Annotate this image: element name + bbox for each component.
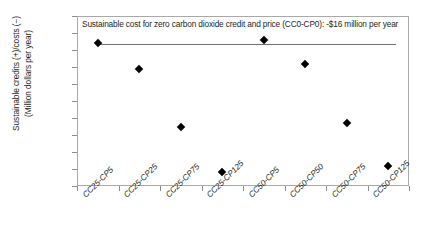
y-axis-title: Sustainable credits (+)/costs (−) (Milli… xyxy=(11,0,34,164)
x-tick-mark xyxy=(243,186,244,191)
x-tick-mark xyxy=(119,186,120,191)
x-tick-mark xyxy=(77,186,78,191)
reference-line xyxy=(98,44,396,45)
x-tick-mark xyxy=(409,186,410,191)
y-axis-title-line-1: Sustainable credits (+)/costs (−) xyxy=(11,0,23,164)
x-tick-mark xyxy=(202,186,203,191)
x-tick-mark xyxy=(285,186,286,191)
chart-container: Sustainable credits (+)/costs (−) (Milli… xyxy=(0,0,429,243)
x-tick-mark xyxy=(326,186,327,191)
plot-area xyxy=(77,16,409,186)
y-axis-title-line-2: (Million dollars per year) xyxy=(22,0,34,164)
annotation-label: Sustainable cost for zero carbon dioxide… xyxy=(82,19,398,29)
x-tick-mark xyxy=(160,186,161,191)
x-tick-mark xyxy=(368,186,369,191)
